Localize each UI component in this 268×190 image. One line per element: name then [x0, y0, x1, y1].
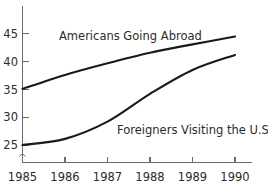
- y-axis-label-25: 25: [3, 138, 18, 152]
- foreigners-visiting-label: Foreigners Visiting the U.S.: [117, 123, 268, 137]
- x-axis-label-1985: 1985: [8, 170, 37, 184]
- x-axis-label-1990: 1990: [220, 170, 249, 184]
- x-axis-label-1989: 1989: [178, 170, 207, 184]
- chart-canvas: 45 40 35 30 25 1985 1986 1987 1988 1989 …: [0, 0, 268, 190]
- x-axis-label-1986: 1986: [50, 170, 79, 184]
- x-tick-labels: 1985 1986 1987 1988 1989 1990: [8, 170, 250, 184]
- series-line-americans-going-abroad: [23, 37, 236, 89]
- y-axis-label-35: 35: [3, 83, 18, 97]
- americans-going-abroad-label: Americans Going Abroad: [59, 29, 202, 43]
- y-tick-labels: 45 40 35 30 25: [3, 27, 18, 152]
- x-axis-label-1987: 1987: [93, 170, 122, 184]
- y-axis-label-30: 30: [3, 110, 18, 124]
- y-axis-label-40: 40: [3, 55, 18, 69]
- line-chart: 45 40 35 30 25 1985 1986 1987 1988 1989 …: [0, 0, 268, 190]
- y-axis-label-45: 45: [3, 27, 18, 41]
- x-axis-label-1988: 1988: [135, 170, 164, 184]
- x-tick-marks: [23, 157, 236, 163]
- series-annotations: Americans Going Abroad Foreigners Visiti…: [59, 29, 268, 137]
